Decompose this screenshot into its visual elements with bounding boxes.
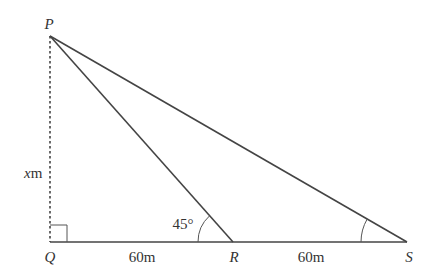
label-q: Q bbox=[45, 249, 56, 265]
label-qr-length: 60m bbox=[129, 249, 156, 265]
label-p: P bbox=[43, 16, 53, 32]
height-unit: m bbox=[31, 165, 43, 181]
segment-ps bbox=[50, 36, 407, 242]
label-s: S bbox=[405, 249, 413, 265]
right-angle-marker-q bbox=[50, 225, 67, 242]
angle-arc-r bbox=[198, 216, 210, 242]
triangle-diagram: P Q R S xm 60m 60m 45° bbox=[0, 0, 433, 275]
label-height: xm bbox=[23, 165, 43, 181]
label-rs-length: 60m bbox=[298, 249, 325, 265]
angle-arc-s bbox=[361, 219, 367, 242]
segment-pr bbox=[50, 36, 233, 242]
label-angle-r: 45° bbox=[173, 216, 194, 232]
label-r: R bbox=[228, 249, 238, 265]
